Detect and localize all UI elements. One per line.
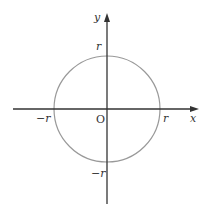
neg-r-y-label: −r	[91, 167, 106, 180]
x-axis-label: x	[190, 112, 197, 125]
origin-label: O	[96, 113, 105, 126]
r-x-label: r	[163, 112, 169, 125]
neg-r-x-label: −r	[36, 112, 51, 125]
y-axis-arrow-icon	[104, 13, 110, 22]
r-y-label: r	[96, 40, 102, 53]
y-axis-label: y	[93, 11, 101, 24]
circle-diagram: y x O r −r r −r	[0, 0, 210, 217]
